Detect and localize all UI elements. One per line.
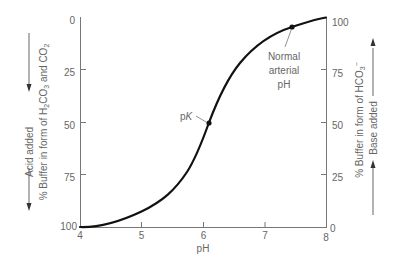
right-ticks	[321, 70, 327, 175]
titration-chart: 0 25 50 75 100 100 75 50 25 0 4 5 6 7 8 …	[0, 0, 399, 271]
right-tick-75: 75	[332, 68, 344, 79]
right-axis-labels: % Buffer in form of HCO3− Base added	[353, 38, 379, 215]
right-tick-0: 0	[330, 223, 336, 234]
right-axis-title: % Buffer in form of HCO3−	[353, 62, 366, 178]
acid-arrow-top-head	[27, 84, 32, 92]
right-tick-25: 25	[332, 172, 344, 183]
arterial-leader-line	[285, 29, 292, 47]
normal-arterial-ph-point	[289, 24, 294, 29]
base-arrow-top-head	[371, 38, 376, 46]
x-tick-4: 4	[77, 230, 83, 241]
arterial-label-line2: arterial	[269, 65, 300, 76]
titration-curve	[80, 18, 326, 228]
x-tick-6: 6	[201, 230, 207, 241]
arterial-label-line1: Normal	[268, 51, 300, 62]
x-tick-8: 8	[323, 232, 329, 243]
left-tick-25: 25	[64, 67, 76, 78]
left-tick-75: 75	[64, 172, 76, 183]
right-tick-100: 100	[332, 17, 349, 28]
left-axis-labels: Acid added % Buffer in form of H2CO3 and…	[24, 33, 51, 211]
pk-point	[206, 120, 211, 125]
left-tick-100: 100	[60, 221, 77, 232]
pk-leader-line	[196, 116, 206, 122]
acid-arrow-bottom-head	[27, 203, 32, 211]
left-ticks	[81, 70, 87, 175]
base-added-label: Base added	[368, 101, 379, 154]
x-tick-5: 5	[139, 230, 145, 241]
arterial-label-line3: pH	[278, 79, 291, 90]
right-tick-50: 50	[332, 120, 344, 131]
bottom-ticks	[142, 222, 266, 228]
x-axis-title: pH	[197, 243, 210, 254]
left-tick-0: 0	[69, 15, 75, 26]
left-axis-title: % Buffer in form of H2CO3 and CO2	[38, 44, 50, 201]
base-arrow-bottom-head	[371, 160, 376, 168]
left-tick-50: 50	[64, 120, 76, 131]
x-tick-7: 7	[262, 230, 268, 241]
pk-label: pK	[180, 111, 194, 122]
